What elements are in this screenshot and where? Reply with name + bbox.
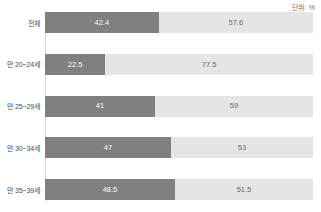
bar-segment-secondary: 57.6 bbox=[159, 12, 313, 33]
bar-value-label: 57.6 bbox=[229, 19, 244, 27]
stacked-bar: 48.551.5 bbox=[45, 179, 313, 200]
stacked-bar: 4753 bbox=[45, 137, 313, 158]
bar-segment-secondary: 51.5 bbox=[175, 179, 313, 200]
category-label: 만 30~34세 bbox=[7, 143, 40, 153]
bar-segment-primary: 47 bbox=[45, 137, 171, 158]
stacked-bar: 22.577.5 bbox=[45, 54, 313, 75]
bar-value-label: 47 bbox=[104, 144, 112, 152]
bar-segment-secondary: 77.5 bbox=[105, 54, 313, 75]
bar-row: 만 20~24세22.577.5 bbox=[45, 54, 313, 75]
bar-value-label: 51.5 bbox=[237, 186, 252, 194]
bar-value-label: 59 bbox=[230, 102, 238, 110]
bar-value-label: 48.5 bbox=[103, 186, 118, 194]
bar-value-label: 42.4 bbox=[95, 19, 110, 27]
stacked-bar: 42.457.6 bbox=[45, 12, 313, 33]
bar-segment-secondary: 53 bbox=[171, 137, 313, 158]
bar-rows: 전체42.457.6만 20~24세22.577.5만 25~29세4159만 … bbox=[45, 12, 313, 200]
stacked-bar-chart: 단위: % 전체42.457.6만 20~24세22.577.5만 25~29세… bbox=[0, 0, 321, 212]
plot-area: 전체42.457.6만 20~24세22.577.5만 25~29세4159만 … bbox=[45, 12, 313, 200]
category-label: 만 35~39세 bbox=[7, 185, 40, 195]
category-label: 전체 bbox=[28, 18, 40, 28]
bar-segment-primary: 22.5 bbox=[45, 54, 105, 75]
bar-row: 만 35~39세48.551.5 bbox=[45, 179, 313, 200]
bar-segment-primary: 41 bbox=[45, 96, 155, 117]
bar-segment-primary: 42.4 bbox=[45, 12, 159, 33]
bar-row: 만 30~34세4753 bbox=[45, 137, 313, 158]
category-label: 만 25~29세 bbox=[7, 101, 40, 111]
bar-row: 만 25~29세4159 bbox=[45, 96, 313, 117]
category-label: 만 20~24세 bbox=[7, 59, 40, 69]
stacked-bar: 4159 bbox=[45, 96, 313, 117]
bar-row: 전체42.457.6 bbox=[45, 12, 313, 33]
bar-value-label: 53 bbox=[238, 144, 246, 152]
bar-value-label: 22.5 bbox=[68, 61, 83, 69]
bar-segment-secondary: 59 bbox=[155, 96, 313, 117]
bar-value-label: 77.5 bbox=[202, 61, 217, 69]
bar-segment-primary: 48.5 bbox=[45, 179, 175, 200]
bar-value-label: 41 bbox=[96, 102, 104, 110]
unit-note: 단위: % bbox=[292, 2, 315, 12]
